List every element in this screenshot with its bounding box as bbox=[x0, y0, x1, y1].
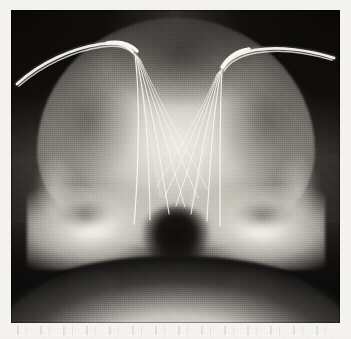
figure-caption bbox=[12, 328, 339, 338]
page-canvas bbox=[0, 0, 351, 339]
radiograph-plate bbox=[11, 10, 340, 323]
electrode-array-right bbox=[157, 48, 334, 226]
electrode-bloom bbox=[17, 43, 334, 206]
electrode-arrays bbox=[11, 10, 340, 323]
